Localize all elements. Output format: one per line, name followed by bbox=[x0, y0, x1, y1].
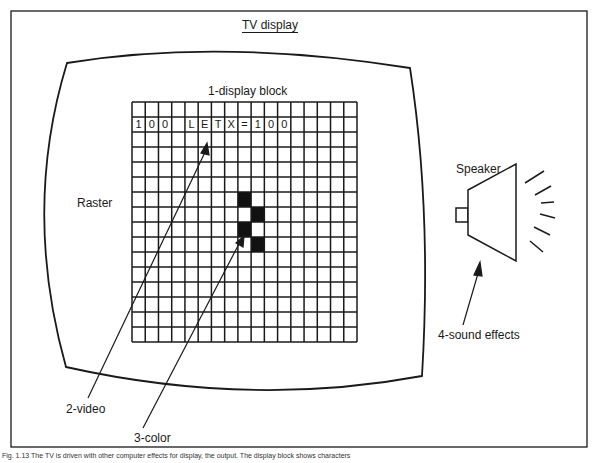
grid-char: 1 bbox=[132, 117, 145, 132]
filled-pixel-cell bbox=[238, 192, 251, 207]
grid-char: 0 bbox=[158, 117, 171, 132]
diagram-title: TV display bbox=[242, 18, 298, 32]
display-grid bbox=[132, 102, 357, 342]
raster-label: Raster bbox=[77, 196, 112, 210]
grid-char: L bbox=[185, 117, 198, 132]
grid-char: X bbox=[225, 117, 238, 132]
filled-pixel-cell bbox=[251, 207, 264, 222]
diagram-canvas bbox=[0, 0, 601, 463]
sound-effects-label: 4-sound effects bbox=[438, 328, 520, 342]
grid-char: E bbox=[198, 117, 211, 132]
filled-pixel-cell bbox=[238, 222, 251, 237]
filled-pixel-cell bbox=[251, 237, 264, 252]
color-arrow bbox=[143, 240, 241, 428]
speaker-label: Speaker bbox=[456, 162, 501, 176]
grid-char: 1 bbox=[251, 117, 264, 132]
display-block-label: 1-display block bbox=[208, 84, 287, 98]
grid-char: 0 bbox=[145, 117, 158, 132]
speaker-icon bbox=[456, 164, 555, 261]
sound-arrowhead-icon bbox=[474, 262, 482, 276]
grid-char: 0 bbox=[264, 117, 277, 132]
grid-char: T bbox=[211, 117, 224, 132]
figure-caption: Fig. 1.13 The TV is driven with other co… bbox=[2, 452, 350, 459]
video-label: 2-video bbox=[66, 402, 105, 416]
grid-char: 0 bbox=[278, 117, 291, 132]
sound-arrow bbox=[463, 270, 479, 325]
grid-char: = bbox=[238, 117, 251, 132]
video-arrow bbox=[88, 148, 207, 398]
color-label: 3-color bbox=[134, 431, 171, 445]
video-arrowhead-icon bbox=[201, 143, 209, 155]
